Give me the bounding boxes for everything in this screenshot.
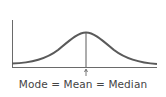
bell-curve (12, 33, 157, 65)
mode-mean-median-label: Mode = Mean = Median (0, 78, 166, 90)
